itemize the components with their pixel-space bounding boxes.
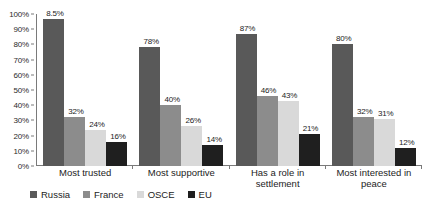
x-axis-category-label: Most trusted xyxy=(37,167,133,189)
bar-value-label: 12% xyxy=(399,138,414,147)
x-axis-category-label: Has a role in settlement xyxy=(230,167,326,189)
bar-slot: 26% xyxy=(181,14,202,166)
bar[interactable] xyxy=(160,105,181,166)
y-axis-tick-mark xyxy=(31,120,34,121)
bar-group-bars: 8.5%32%24%16% xyxy=(37,14,133,166)
bar-group: 78%40%26%14% xyxy=(133,14,229,166)
bar-value-label: 32% xyxy=(68,107,83,116)
legend-item[interactable]: OSCE xyxy=(137,189,175,200)
y-axis-tick-mark xyxy=(31,14,34,15)
bar-slot: 32% xyxy=(64,14,85,166)
legend-label: Russia xyxy=(41,189,70,200)
bar-slot: 24% xyxy=(85,14,106,166)
bar[interactable] xyxy=(43,19,64,166)
bar-group-bars: 78%40%26%14% xyxy=(133,14,229,166)
bar-value-label: 24% xyxy=(89,120,104,129)
bar-value-label: 80% xyxy=(336,34,351,43)
bar[interactable] xyxy=(202,145,223,166)
bar[interactable] xyxy=(236,34,257,166)
legend-swatch-icon xyxy=(30,191,37,198)
bar-value-label: 16% xyxy=(110,132,125,141)
bar[interactable] xyxy=(106,142,127,166)
x-axis-category-label: Most interested in peace xyxy=(326,167,422,189)
bar-slot: 87% xyxy=(236,14,257,166)
bar-value-label: 87% xyxy=(240,24,255,33)
legend-swatch-icon xyxy=(83,191,90,198)
bar-value-label: 46% xyxy=(261,86,276,95)
bar-slot: 80% xyxy=(332,14,353,166)
bar[interactable] xyxy=(353,117,374,166)
legend-item[interactable]: France xyxy=(83,189,124,200)
bar[interactable] xyxy=(278,101,299,166)
bar[interactable] xyxy=(139,47,160,166)
bar-value-label: 32% xyxy=(357,107,372,116)
bar-groups: 8.5%32%24%16%78%40%26%14%87%46%43%21%80%… xyxy=(37,14,422,166)
plot-area: 8.5%32%24%16%78%40%26%14%87%46%43%21%80%… xyxy=(36,14,422,166)
bar-chart: 0%10%20%30%40%50%60%70%80%90%100% 8.5%32… xyxy=(0,0,432,210)
bar[interactable] xyxy=(85,130,106,166)
bar-slot: 14% xyxy=(202,14,223,166)
legend-item[interactable]: EU xyxy=(188,189,212,200)
y-axis-tick-mark xyxy=(31,135,34,136)
legend-item[interactable]: Russia xyxy=(30,189,70,200)
y-axis-tick-label: 60% xyxy=(14,70,29,79)
y-axis-tick-label: 50% xyxy=(14,86,29,95)
bar-group-bars: 80%32%31%12% xyxy=(326,14,422,166)
bar[interactable] xyxy=(299,134,320,166)
y-axis-tick-mark xyxy=(31,105,34,106)
bar-slot: 21% xyxy=(299,14,320,166)
legend: RussiaFranceOSCEEU xyxy=(30,189,212,200)
y-axis-tick-mark xyxy=(31,59,34,60)
y-axis-tick-mark xyxy=(31,29,34,30)
y-axis-tick-label: 100% xyxy=(9,10,29,19)
y-axis-tick-label: 80% xyxy=(14,40,29,49)
y-axis-tick-label: 10% xyxy=(14,146,29,155)
y-axis-tick-label: 70% xyxy=(14,55,29,64)
y-axis: 0%10%20%30%40%50%60%70%80%90%100% xyxy=(0,14,34,166)
legend-label: France xyxy=(94,189,124,200)
bar[interactable] xyxy=(374,119,395,166)
y-axis-tick-label: 20% xyxy=(14,131,29,140)
bar-slot: 31% xyxy=(374,14,395,166)
x-axis-category-label: Most supportive xyxy=(133,167,229,189)
bar-slot: 43% xyxy=(278,14,299,166)
bar[interactable] xyxy=(257,96,278,166)
bar-value-label: 78% xyxy=(143,37,158,46)
bar-slot: 46% xyxy=(257,14,278,166)
bar-group: 80%32%31%12% xyxy=(326,14,422,166)
bar-value-label: 14% xyxy=(206,135,221,144)
bar-slot: 40% xyxy=(160,14,181,166)
y-axis-tick-label: 40% xyxy=(14,101,29,110)
bar-group: 87%46%43%21% xyxy=(230,14,326,166)
y-axis-tick-label: 90% xyxy=(14,25,29,34)
bar-group: 8.5%32%24%16% xyxy=(37,14,133,166)
bar-slot: 78% xyxy=(139,14,160,166)
bar-value-label: 40% xyxy=(164,95,179,104)
legend-label: OSCE xyxy=(148,189,175,200)
bar[interactable] xyxy=(395,148,416,166)
x-axis-category-labels: Most trustedMost supportiveHas a role in… xyxy=(37,167,422,189)
bar-value-label: 8.5% xyxy=(46,9,63,18)
y-axis-tick-label: 0% xyxy=(18,162,29,171)
y-axis-tick-mark xyxy=(31,74,34,75)
legend-swatch-icon xyxy=(137,191,144,198)
legend-swatch-icon xyxy=(188,191,195,198)
y-axis-tick-mark xyxy=(31,90,34,91)
bar-group-bars: 87%46%43%21% xyxy=(230,14,326,166)
y-axis-tick-label: 30% xyxy=(14,116,29,125)
bar[interactable] xyxy=(181,126,202,166)
bar-value-label: 26% xyxy=(185,116,200,125)
bar-slot: 32% xyxy=(353,14,374,166)
bar[interactable] xyxy=(332,44,353,166)
bar-value-label: 31% xyxy=(378,109,393,118)
bar-slot: 16% xyxy=(106,14,127,166)
bar-slot: 12% xyxy=(395,14,416,166)
bar-value-label: 43% xyxy=(282,91,297,100)
y-axis-tick-mark xyxy=(31,150,34,151)
bar[interactable] xyxy=(64,117,85,166)
bar-slot: 8.5% xyxy=(43,14,64,166)
y-axis-tick-mark xyxy=(31,44,34,45)
bar-value-label: 21% xyxy=(303,124,318,133)
legend-label: EU xyxy=(199,189,212,200)
y-axis-tick-mark xyxy=(31,166,34,167)
